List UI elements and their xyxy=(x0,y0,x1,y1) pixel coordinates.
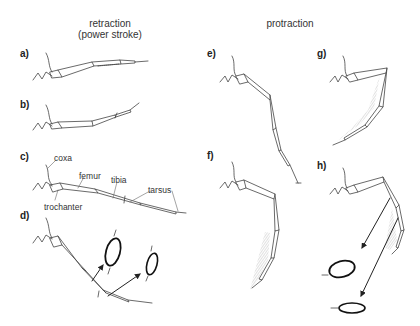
leg-panel-e xyxy=(220,56,301,183)
leg-panel-c xyxy=(33,160,186,214)
leg-panel-g xyxy=(330,56,387,145)
leg-panel-d xyxy=(33,218,160,303)
leg-panel-f xyxy=(220,162,279,290)
insect-leg-stroke-figure: retraction (power stroke) protraction a)… xyxy=(0,0,420,326)
leg-drawings xyxy=(0,0,420,326)
leg-panel-h xyxy=(322,168,404,313)
leg-panel-b xyxy=(33,103,139,130)
leg-panel-a xyxy=(33,53,148,80)
